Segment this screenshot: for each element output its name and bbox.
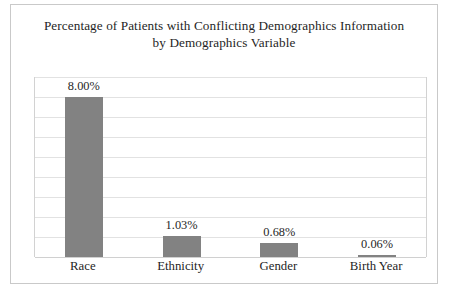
bar[interactable] — [260, 243, 298, 257]
bars-layer: 8.00%1.03%0.68%0.06% — [35, 77, 426, 257]
chart-frame: Percentage of Patients with Conflicting … — [10, 4, 438, 284]
bar-slot: 8.00% — [35, 77, 133, 257]
bar-value-label: 8.00% — [68, 79, 100, 94]
plot-area: 8.00%1.03%0.68%0.06% — [34, 77, 427, 257]
bar[interactable] — [65, 97, 103, 257]
chart-title: Percentage of Patients with Conflicting … — [11, 17, 437, 51]
bar-slot: 0.06% — [328, 77, 426, 257]
bar-slot: 1.03% — [133, 77, 231, 257]
category-label-race: Race — [34, 259, 132, 274]
bar[interactable] — [163, 236, 201, 257]
category-label-birth-year: Birth Year — [327, 259, 425, 274]
bar[interactable] — [358, 255, 396, 257]
bar-slot: 0.68% — [231, 77, 329, 257]
category-label-ethnicity: Ethnicity — [132, 259, 230, 274]
bar-value-label: 0.06% — [361, 237, 393, 252]
bar-value-label: 0.68% — [263, 225, 295, 240]
chart-title-line-1: Percentage of Patients with Conflicting … — [11, 17, 437, 34]
category-label-gender: Gender — [230, 259, 328, 274]
bar-value-label: 1.03% — [166, 218, 198, 233]
gridline — [35, 257, 426, 258]
category-axis: RaceEthnicityGenderBirth Year — [34, 259, 427, 283]
chart-title-line-2: by Demographics Variable — [11, 34, 437, 51]
